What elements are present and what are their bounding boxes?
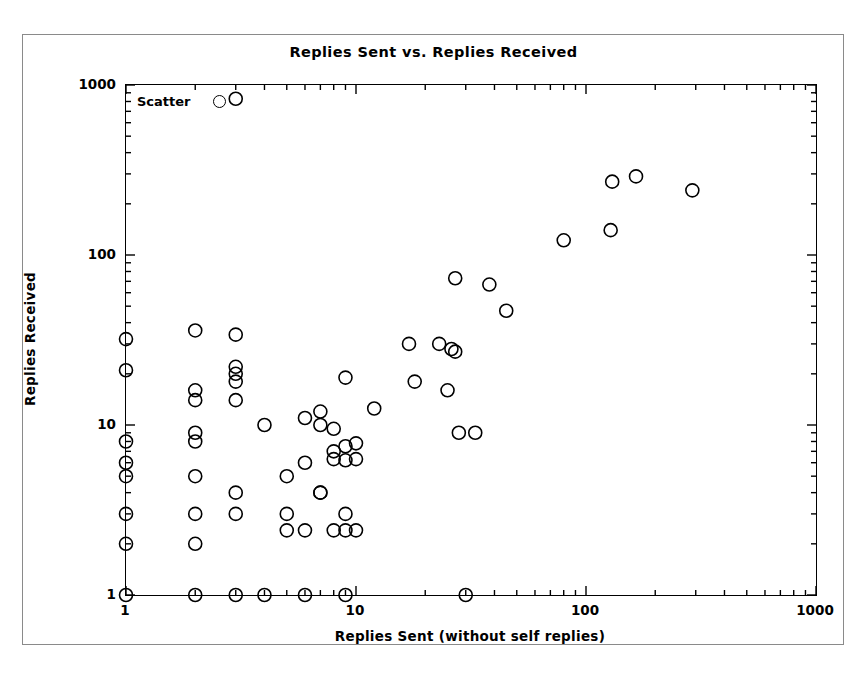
plot-area (125, 84, 817, 596)
scatter-point (314, 405, 327, 418)
scatter-point (229, 328, 242, 341)
scatter-point (280, 524, 293, 537)
scatter-point (408, 375, 421, 388)
scatter-point (449, 272, 462, 285)
scatter-point (327, 453, 340, 466)
scatter-point (314, 419, 327, 432)
scatter-point (630, 170, 643, 183)
legend-entry-label: Scatter (137, 94, 191, 109)
legend-marker-circle-icon (213, 95, 226, 108)
scatter-point (280, 507, 293, 520)
scatter-point (403, 337, 416, 350)
scatter-point (298, 524, 311, 537)
scatter-point (483, 278, 496, 291)
scatter-point (686, 184, 699, 197)
scatter-point (189, 324, 202, 337)
scatter-point (433, 337, 446, 350)
scatter-point (469, 426, 482, 439)
scatter-point (298, 456, 311, 469)
scatter-point (441, 384, 454, 397)
scatter-point (280, 470, 293, 483)
chart-page: Replies Sent vs. Replies Received Replie… (0, 0, 867, 687)
scatter-point (557, 234, 570, 247)
scatter-point (229, 486, 242, 499)
y-axis-title: Replies Received (22, 272, 38, 406)
scatter-point (339, 371, 352, 384)
scatter-point (314, 486, 327, 499)
scatter-point (258, 419, 271, 432)
scatter-point (606, 175, 619, 188)
chart-title: Replies Sent vs. Replies Received (0, 44, 867, 60)
scatter-point (327, 422, 340, 435)
scatter-point (339, 507, 352, 520)
scatter-point (449, 345, 462, 358)
scatter-point (368, 402, 381, 415)
scatter-plot-svg (106, 65, 836, 615)
scatter-point (500, 304, 513, 317)
scatter-point (229, 507, 242, 520)
scatter-point (189, 537, 202, 550)
scatter-point (189, 435, 202, 448)
scatter-point (229, 394, 242, 407)
scatter-point (229, 375, 242, 388)
scatter-point (604, 224, 617, 237)
scatter-point (189, 470, 202, 483)
scatter-point (120, 364, 133, 377)
scatter-point (452, 426, 465, 439)
scatter-point (298, 411, 311, 424)
chart-legend: Scatter (137, 90, 226, 112)
scatter-point (189, 507, 202, 520)
scatter-point (189, 394, 202, 407)
scatter-point (229, 92, 242, 105)
x-axis-title: Replies Sent (without self replies) (125, 628, 815, 644)
scatter-points (120, 92, 699, 601)
plot-inner (126, 85, 816, 595)
